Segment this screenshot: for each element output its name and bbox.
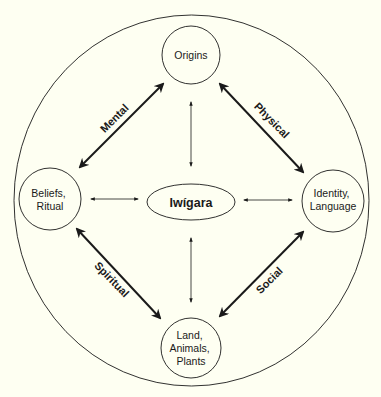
- center-label: Iwígara: [169, 196, 213, 210]
- edge-mental-label: Mental: [98, 102, 131, 135]
- svg-text:Iwígara: Iwígara: [169, 196, 213, 210]
- edge-mental-arrow: [80, 84, 163, 167]
- node-land-label-line3: Plants: [176, 355, 205, 367]
- node-origins: Origins: [162, 26, 220, 84]
- edge-spiritual-arrow: [77, 229, 160, 318]
- iwigara-diagram: Origins Beliefs, Ritual Identity, Langua…: [0, 0, 381, 397]
- svg-text:Identity, Language: Identity, Language: [310, 187, 357, 212]
- node-land-label-line2: Animals,: [169, 342, 209, 354]
- node-identity-label-line2: Language: [310, 200, 357, 212]
- node-beliefs-ritual: Beliefs, Ritual: [19, 168, 81, 230]
- node-identity-label-line1: Identity,: [314, 187, 350, 199]
- edge-social-label: Social: [253, 264, 284, 295]
- edge-physical-label: Physical: [252, 100, 292, 140]
- svg-text:Beliefs, Ritual: Beliefs, Ritual: [31, 187, 68, 212]
- node-beliefs-label-line1: Beliefs,: [31, 187, 65, 199]
- edge-social-arrow: [220, 232, 303, 316]
- svg-text:Origins: Origins: [174, 49, 207, 61]
- center-node-iwigara: Iwígara: [147, 184, 235, 220]
- node-beliefs-circle: [19, 168, 81, 230]
- node-identity-language: Identity, Language: [302, 170, 364, 232]
- edge-physical-arrow: [220, 84, 303, 172]
- node-land-animals-plants: Land, Animals, Plants: [161, 318, 221, 378]
- svg-text:Mental: Mental: [98, 102, 131, 135]
- svg-text:Physical: Physical: [252, 100, 292, 140]
- node-beliefs-label-line2: Ritual: [37, 200, 64, 212]
- node-origins-label: Origins: [174, 49, 207, 61]
- svg-text:Social: Social: [253, 264, 284, 295]
- node-land-label-line1: Land,: [176, 329, 202, 341]
- svg-text:Land, Animals, Pla: Land, Animals, Plants: [169, 329, 212, 367]
